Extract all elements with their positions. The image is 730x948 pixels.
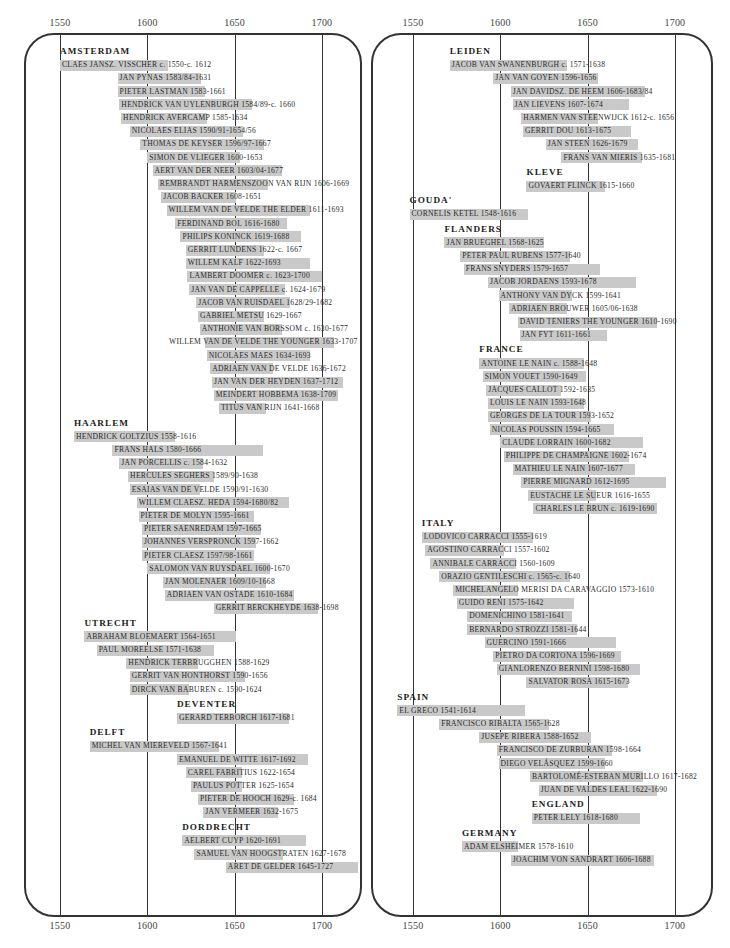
artist-entry: FRANS VAN MIERIS 1635-1681: [563, 152, 675, 163]
region-heading: DORDRECHT: [182, 822, 251, 832]
region-heading: DELFT: [90, 727, 126, 737]
artist-entry: ABRAHAM BLOEMAERT 1564-1651: [86, 631, 215, 642]
region-heading: FRANCE: [479, 344, 523, 354]
artist-entry: JAN PORCELLIS c. 1584-1632: [121, 457, 227, 468]
artist-entry: CAREL FABRITIUS 1622-1654: [188, 767, 296, 778]
region-heading: HAARLEM: [74, 418, 129, 428]
region-heading: AMSTERDAM: [60, 46, 130, 56]
artist-entry: GERRIT LUNDENS 1622-c. 1667: [188, 244, 303, 255]
artist-entry: ANNIBALE CARRACCI 1560-1609: [432, 558, 554, 569]
year-gridline: [60, 33, 61, 917]
artist-entry: FRANCISCO DE ZURBURAN 1598-1664: [499, 744, 641, 755]
artist-entry: ORAZIO GENTILESCHI c. 1565-c. 1640: [441, 571, 580, 582]
artist-entry: GERRIT VAN HONTHORST 1590-1656: [132, 670, 268, 681]
artist-entry: JAN BRUEGHEL 1568-1625: [446, 237, 543, 248]
artist-entry: REMBRANDT HARMENSZOON VAN RIJN 1606-1669: [160, 178, 350, 189]
axis-tick-label-top: 1550: [403, 17, 424, 28]
axis-tick-label-top: 1700: [311, 17, 332, 28]
artist-entry: CLAUDE LORRAIN 1600-1682: [502, 437, 610, 448]
artist-entry: ADRIAEN VAN OSTADE 1610-1684: [167, 589, 293, 600]
artist-entry: PAULUS POTTER 1625-1654: [193, 780, 294, 791]
axis-tick-label-top: 1650: [577, 17, 598, 28]
artist-entry: JUSEPE RIBERA 1588-1652: [481, 731, 578, 742]
artist-entry: JOACHIM VON SANDRART 1606-1688: [513, 854, 651, 865]
artist-entry: JACOB JORDAENS 1593-1678: [490, 276, 597, 287]
artist-entry: NICOLAES ELIAS 1590/91-1654/56: [132, 125, 256, 136]
artist-entry: PIERRE MIGNARD 1612-1695: [523, 476, 629, 487]
axis-tick-label-top: 1600: [490, 17, 511, 28]
artist-entry: WILLEM KALF 1622-1693: [188, 257, 281, 268]
artist-entry: LOUIS LE NAIN 1593-1648: [490, 397, 586, 408]
artist-entry: MICHEL VAN MIEREVELD 1567-1641: [92, 740, 228, 751]
artist-entry: DAVID TENIERS THE YOUNGER 1610-1690: [520, 316, 677, 327]
region-heading: DEVENTER: [177, 699, 236, 709]
artist-entry: HENDRICK GOLTZIUS 1558-1616: [76, 431, 196, 442]
artist-entry: ARET DE GELDER 1645-1727: [228, 861, 334, 872]
artist-entry: WILLEM VAN DE VELDE THE ELDER 1611-1693: [169, 204, 344, 215]
region-heading: KLEVE: [526, 167, 563, 177]
artist-entry: GEORGES DE LA TOUR 1593-1652: [490, 410, 614, 421]
artist-entry: PIETER DE MOLYN 1595-1661: [141, 510, 250, 521]
artist-entry: BERNARDO STROZZI 1581-1644: [469, 624, 587, 635]
artist-entry: MEINDERT HOBBEMA 1638-1709: [216, 389, 337, 400]
artist-entry: THOMAS DE KEYSER 1596/97-1667: [142, 138, 271, 149]
artist-entry: PIETER DE HOOCH 1629-c. 1684: [200, 793, 317, 804]
artist-entry: PHILIPPE DE CHAMPAIGNE 1602-1674: [506, 450, 647, 461]
artist-entry: PIETER LASTMAN 1583-1661: [120, 86, 226, 97]
region-heading: GOUDA': [410, 195, 453, 205]
axis-tick-label-bottom: 1550: [403, 920, 424, 931]
artist-entry: JACOB BACKER 1608-1651: [163, 191, 261, 202]
artist-entry: NICOLAES MAES 1634-1693: [209, 350, 311, 361]
artist-entry: SALOMON VAN RUYSDAEL 1600-1670: [149, 563, 290, 574]
artist-entry: ADAM ELSHEIMER 1578-1610: [464, 841, 574, 852]
artist-entry: CORNELIS KETEL 1548-1616: [412, 208, 517, 219]
artist-entry: PHILIPS KONINCK 1619-1688: [182, 231, 289, 242]
axis-tick-label-top: 1550: [50, 17, 71, 28]
axis-tick-label-top: 1700: [664, 17, 685, 28]
region-heading: UTRECHT: [84, 618, 136, 628]
artist-entry: NICOLAS POUSSIN 1594-1665: [492, 424, 601, 435]
artist-entry: WILLEM CLAESZ. HEDA 1594-1680/82: [139, 497, 279, 508]
artist-entry: CLAES JANSZ. VISSCHER c. 1550-c. 1612: [62, 59, 211, 70]
artist-entry: EL GRECO 1541-1614: [399, 705, 476, 716]
artist-entry: DOMENICHINO 1581-1641: [469, 610, 565, 621]
year-gridline: [322, 33, 323, 917]
artist-entry: FRANS HALS 1580-1666: [114, 444, 201, 455]
artist-entry: JAN FYT 1611-1661: [522, 329, 592, 340]
artist-entry: BARTOLOMÉ-ESTEBAN MURILLO 1617-1682: [532, 771, 697, 782]
artist-entry: AELBERT CUYP 1620-1691: [184, 835, 281, 846]
artist-entry: JAN MOLENAER 1609/10-1668: [165, 576, 275, 587]
artist-entry: ADRIAEN BROUWER 1605/06-1638: [511, 303, 638, 314]
artist-entry: GERARD TERBORCH 1617-1681: [179, 712, 295, 723]
artist-entry: ANTHONIE VAN BORSSOM c. 1630-1677: [202, 323, 349, 334]
artist-entry: JAN VAN DE CAPPELLE c. 1624-1679: [191, 284, 325, 295]
artist-entry: FERDINAND BOL 1616-1680: [177, 218, 279, 229]
artist-entry: ANTHONY VAN DYCK 1599-1641: [501, 290, 622, 301]
artist-entry: LODOVICO CARRACCI 1555-1619: [424, 531, 547, 542]
artist-entry: FRANS SNYDERS 1579-1657: [466, 263, 569, 274]
region-heading: FLANDERS: [444, 224, 502, 234]
artist-entry: FRANCISCO RIBALTA 1565-1628: [441, 718, 560, 729]
artist-entry: ADRIAEN VAN DE VELDE 1636-1672: [212, 363, 346, 374]
artist-entry: JAN LIEVENS 1607-1674: [515, 99, 604, 110]
artist-entry: GERRIT DOU 1613-1675: [525, 125, 611, 136]
region-heading: GERMANY: [462, 828, 518, 838]
artist-entry: JAN VAN GOYEN 1596-1656: [495, 72, 596, 83]
artist-entry: CHARLES LE BRUN c. 1619-1690: [535, 503, 654, 514]
artist-entry: PETER PAUL RUBENS 1577-1640: [462, 250, 581, 261]
axis-tick-label-bottom: 1600: [137, 920, 158, 931]
axis-tick-label-top: 1600: [137, 17, 158, 28]
artist-entry: JAN DAVIDSZ. DE HEEM 1606-1683/84: [513, 86, 653, 97]
artist-entry: PAUL MOREELSE 1571-1638: [99, 644, 202, 655]
artist-entry: GUIDO RENI 1575-1642: [459, 597, 544, 608]
region-heading: LEIDEN: [450, 46, 491, 56]
artist-entry: SALVATOR ROSA 1615-1673: [528, 676, 629, 687]
artist-entry: WILLEM VAN DE VELDE THE YOUNGER 1633-170…: [169, 336, 358, 347]
year-gridline: [675, 33, 676, 917]
region-heading: SPAIN: [397, 692, 429, 702]
year-gridline: [500, 33, 501, 917]
artist-entry: EMANUEL DE WITTE 1617-1692: [179, 754, 296, 765]
artist-entry: MICHELANGELO MERISI DA CARAVAGGIO 1573-1…: [455, 584, 654, 595]
artist-entry: SIMON DE VLIEGER 1600-1653: [149, 152, 262, 163]
artist-entry: HENDRICK VAN UYLENBURGH 1584/89-c. 1660: [121, 99, 295, 110]
